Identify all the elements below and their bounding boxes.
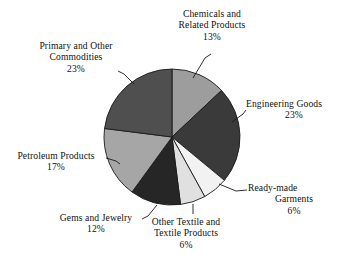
slice-label-gems: Gems and Jewelry 12% [46, 212, 146, 235]
slice-label-petroleum: Petroleum Products 17% [2, 150, 110, 173]
slice-label-engineering-line1: Engineering Goods [246, 98, 342, 109]
slice-label-chemicals: Chemicals and Related Products 13% [160, 8, 264, 42]
slice-label-other-textile-percent: 6% [138, 239, 234, 250]
slice-label-petroleum-line1: Petroleum Products [2, 150, 110, 161]
leader-line-readymade [219, 184, 247, 191]
slice-label-other-textile-line1: Other Textile and [138, 216, 234, 227]
slice-label-primary-percent: 23% [24, 63, 128, 74]
slice-label-gems-percent: 12% [46, 223, 146, 234]
slice-label-primary-line1: Primary and Other [24, 40, 128, 51]
slice-label-primary: Primary and Other Commodities 23% [24, 40, 128, 74]
slice-label-readymade-line1: Ready-made [248, 182, 340, 193]
slice-label-gems-line1: Gems and Jewelry [46, 212, 146, 223]
slice-label-readymade: Ready-made Garments 6% [248, 182, 340, 216]
slice-label-readymade-percent: 6% [248, 205, 340, 216]
pie-slice[interactable] [105, 69, 172, 137]
slice-label-other-textile-line2: Textile Products [138, 227, 234, 238]
slice-label-engineering-percent: 23% [246, 109, 342, 120]
slice-label-primary-line2: Commodities [24, 51, 128, 62]
slice-label-chemicals-line2: Related Products [160, 19, 264, 30]
pie-chart-figure: Chemicals and Related Products 13% Engin… [0, 0, 343, 270]
slice-label-petroleum-percent: 17% [2, 161, 110, 172]
slice-label-chemicals-percent: 13% [160, 31, 264, 42]
slice-label-readymade-line2: Garments [248, 193, 340, 204]
slice-label-other-textile: Other Textile and Textile Products 6% [138, 216, 234, 250]
slice-label-engineering: Engineering Goods 23% [246, 98, 342, 121]
slice-label-chemicals-line1: Chemicals and [160, 8, 264, 19]
